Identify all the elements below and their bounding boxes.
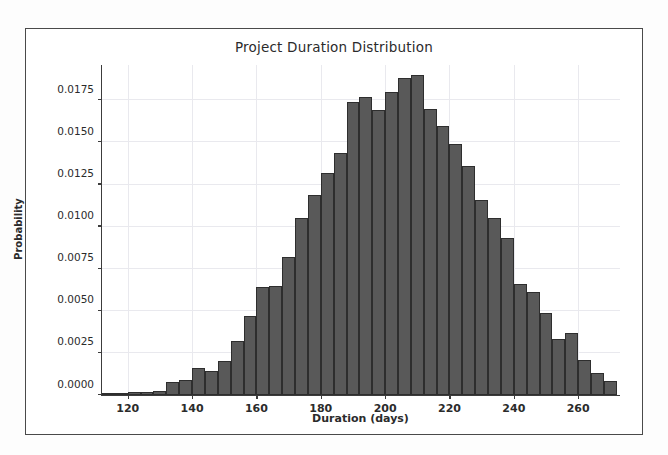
x-tick-mark [192,395,193,399]
y-tick-label: 0.0125 [57,167,94,179]
figure-frame: Project Duration Distribution 0.00000.00… [25,28,643,435]
y-tick-mark [98,141,102,142]
histogram-bar [308,195,321,395]
histogram-bar [115,393,128,395]
histogram-bar [141,392,154,395]
y-tick-label: 0.0000 [57,378,94,390]
y-tick-mark [98,99,102,100]
y-tick-label: 0.0075 [57,251,94,263]
histogram-bar [205,371,218,395]
y-tick-mark [98,394,102,395]
x-tick-mark [321,395,322,399]
histogram-bar [411,75,424,395]
histogram-bar [385,92,398,395]
histogram-bar [514,284,527,395]
chart-screenshot: Project Duration Distribution 0.00000.00… [0,0,668,455]
histogram-bar [128,392,141,395]
histogram-bar [231,341,244,395]
histogram-bar [449,144,462,395]
histogram-bar [218,361,231,395]
x-axis-label: Duration (days) [101,412,620,425]
histogram-bar [437,126,450,395]
histogram-bar [334,153,347,395]
histogram-bar [256,287,269,395]
histogram-bar [295,218,308,395]
x-tick-mark [449,395,450,399]
y-tick-mark [98,310,102,311]
histogram-bar [552,339,565,395]
histogram-bar [269,286,282,395]
x-tick-mark [128,395,129,399]
y-tick-label: 0.0100 [57,209,94,221]
histogram-bar [578,360,591,395]
histogram-bar [372,110,385,395]
chart-title: Project Duration Distribution [26,39,642,55]
histogram-bars [102,65,620,395]
histogram-bar [398,78,411,395]
y-tick-mark [98,183,102,184]
histogram-bar [166,382,179,395]
y-tick-mark [98,268,102,269]
x-tick-mark [578,395,579,399]
histogram-bar [488,218,501,395]
histogram-bar [462,166,475,395]
histogram-bar [282,257,295,395]
histogram-bar [153,391,166,395]
histogram-bar [591,373,604,395]
histogram-bar [359,97,372,395]
histogram-bar [527,292,540,395]
histogram-bar [501,238,514,395]
histogram-bar [347,102,360,395]
histogram-bar [540,313,553,396]
x-tick-mark [256,395,257,399]
histogram-bar [179,380,192,395]
histogram-bar [192,368,205,395]
histogram-bar [424,109,437,395]
histogram-bar [102,393,115,395]
histogram-bar [565,333,578,395]
y-tick-label: 0.0025 [57,335,94,347]
histogram-bar [475,200,488,395]
plot-area: 0.00000.00250.00500.00750.01000.01250.01… [101,65,620,396]
y-tick-label: 0.0175 [57,83,94,95]
histogram-bar [321,173,334,395]
x-tick-mark [514,395,515,399]
histogram-bar [604,381,617,395]
y-tick-label: 0.0150 [57,125,94,137]
y-tick-label: 0.0050 [57,293,94,305]
y-axis-label: Probability [13,198,24,260]
x-tick-mark [385,395,386,399]
histogram-bar [244,316,257,395]
y-tick-mark [98,225,102,226]
y-tick-mark [98,352,102,353]
